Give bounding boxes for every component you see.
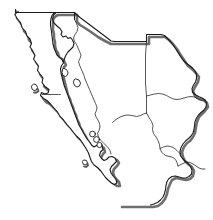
map-figure: Northwest Mexico [0,0,213,220]
region-hotspot-baja-california-sur[interactable] [66,121,84,139]
island-isla-espiritu-santo [83,160,88,165]
island-gulf-islet-2 [94,137,100,143]
island-gulf-islet-3 [97,142,102,147]
region-hotspot-baja-california[interactable] [31,46,49,64]
region-hotspot-sinaloa[interactable] [156,141,174,159]
region-hotspot-sonora[interactable] [106,66,124,84]
island-gulf-islet-1 [90,131,96,137]
island-angel-de-la-guarda [62,69,68,77]
map-canvas[interactable] [0,0,213,220]
island-isla-cedros [32,84,38,91]
land-fill-layer [13,10,207,206]
island-isla-tiburon [74,79,81,87]
region-hotspot-chihuahua[interactable] [163,63,181,81]
